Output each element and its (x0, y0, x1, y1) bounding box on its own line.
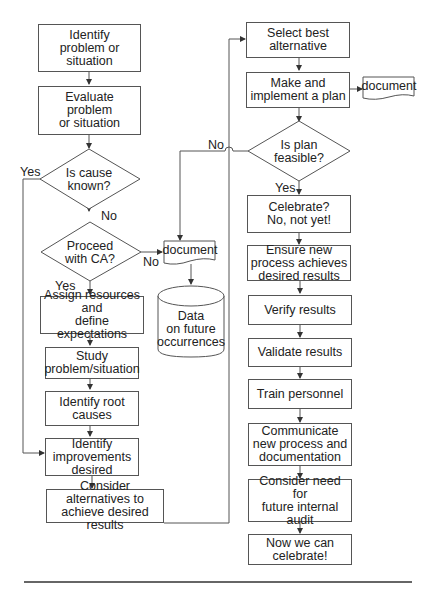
node-proceed-with-ca: Proceed with CA? (60, 240, 120, 266)
node-consider-audit: Consider need for future internal audit (248, 479, 352, 522)
node-identify-improvements: Identify improvements desired (45, 438, 139, 476)
node-document-1: document (164, 241, 216, 259)
node-validate-results: Validate results (248, 338, 352, 367)
edge-label-cause-no: No (101, 210, 117, 223)
edge-label-cause-yes: Yes (20, 166, 40, 179)
node-evaluate-problem: Evaluate problem or situation (38, 86, 141, 135)
flowchart: Identify problem or situation Evaluate p… (0, 0, 436, 592)
node-is-plan-feasible: Is plan feasible? (269, 139, 329, 165)
edge-label-feasible-yes: Yes (275, 182, 295, 195)
node-is-cause-known: Is cause known? (59, 167, 119, 193)
node-celebrate-not-yet: Celebrate? No, not yet! (247, 195, 351, 233)
node-consider-alternatives: Consider alternatives to achieve desired… (46, 489, 164, 523)
node-study-problem: Study problem/situation (45, 347, 139, 379)
node-select-best: Select best alternative (246, 22, 350, 58)
node-train-personnel: Train personnel (248, 379, 352, 409)
node-data-store: Data on future occurrences (155, 310, 227, 349)
node-identify-problem: Identify problem or situation (38, 24, 141, 72)
node-communicate: Communicate new process and documentatio… (248, 423, 352, 466)
node-assign-resources: Assign resources and define expectations (40, 296, 144, 334)
edge-label-feasible-no: No (208, 139, 224, 152)
edge-label-proceed-no: No (143, 256, 159, 269)
node-verify-results: Verify results (248, 295, 352, 325)
node-ensure-process: Ensure new process achieves desired resu… (247, 245, 351, 281)
node-identify-root-causes: Identify root causes (45, 391, 139, 426)
edge-label-proceed-yes: Yes (55, 280, 75, 293)
node-document-2: document (363, 77, 415, 95)
node-now-celebrate: Now we can celebrate! (248, 534, 352, 565)
node-make-plan: Make and implement a plan (246, 72, 350, 108)
